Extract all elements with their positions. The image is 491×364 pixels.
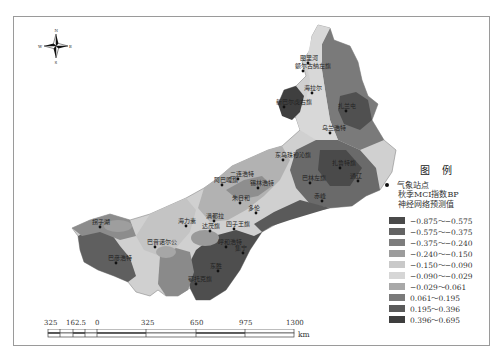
station-label: 锡林浩特 [250, 179, 274, 187]
station-label: 巴林左旗 [302, 174, 326, 182]
legend-class-label: −0.150～−0.090 [410, 259, 473, 270]
station-dot-icon [255, 212, 258, 215]
legend-class-label: 0.396～0.695 [410, 314, 460, 325]
station-label: 东胜 [210, 262, 222, 270]
station-dot-icon [339, 167, 342, 170]
station-dot-icon [154, 246, 157, 249]
station-label: 达茂旗 [202, 222, 220, 230]
compass-e: E [69, 44, 72, 49]
station-label: 集宁 [235, 244, 247, 252]
legend-subtitle-1: 秋季MCI指数BP [398, 190, 485, 200]
scale-tick: 1300 [286, 319, 304, 327]
compass-n: N [55, 28, 59, 33]
scale-unit: km [298, 330, 310, 339]
legend-classes: −0.875～−0.575−0.575～−0.375−0.375～−0.240−… [381, 215, 485, 325]
station-dot-icon [225, 246, 228, 249]
station-dot-icon [345, 110, 348, 113]
station-dot-icon [302, 70, 305, 73]
legend-class-row: −0.575～−0.375 [381, 226, 485, 237]
station-dot-icon [309, 182, 312, 185]
legend-class-row: −0.875～−0.575 [381, 215, 485, 226]
legend-class-label: −0.029～0.061 [410, 281, 466, 292]
legend-class-row: −0.240～−0.150 [381, 248, 485, 259]
station-label: 巴音诺尔公 [147, 238, 177, 246]
station-dot-icon [385, 183, 389, 187]
legend-class-label: −0.090～−0.029 [410, 270, 473, 281]
legend-class-label: −0.375～−0.240 [410, 237, 473, 248]
scale-tick: 325 [141, 319, 154, 327]
legend-swatch [389, 228, 405, 235]
scale-labels: 325 162.5 0 325 650 975 1300 [40, 319, 340, 329]
station-dot-icon [283, 106, 286, 109]
legend-title: 图 例 [391, 162, 485, 177]
scale-tick: 325 [44, 319, 57, 327]
legend-swatch [389, 250, 405, 257]
compass-s: S [55, 60, 58, 65]
station-label: 赤峰 [314, 192, 326, 200]
legend-swatch [389, 239, 405, 246]
legend-class-label: −0.240～−0.150 [410, 248, 473, 259]
scale-tick: 162.5 [66, 319, 86, 327]
station-label: 阿巴嘎旗 [214, 176, 238, 184]
station-label: 乌兰浩特 [322, 124, 346, 132]
legend-class-row: −0.029～0.061 [381, 281, 485, 292]
legend-class-row: −0.150～−0.090 [381, 259, 485, 270]
scale-tick: 0 [95, 319, 99, 327]
station-dot-icon [233, 228, 236, 231]
station-label: 四子王旗 [226, 220, 250, 228]
legend-class-row: 0.396～0.695 [381, 314, 485, 325]
station-dot-icon [99, 226, 102, 229]
station-label: 海力素 [178, 217, 196, 225]
station-label: 多伦 [248, 204, 260, 212]
compass-rose-icon: N S E W [38, 28, 72, 65]
legend-swatch [389, 261, 405, 268]
legend-class-label: 0.195～0.396 [410, 303, 460, 314]
station-dot-icon [329, 132, 332, 135]
legend-subtitle-2: 神经网络预测值 [398, 200, 485, 210]
legend-class-row: 0.195～0.396 [381, 303, 485, 314]
station-label: 东乌珠穆沁旗 [275, 151, 311, 159]
station-dot-icon [115, 262, 118, 265]
station-label: 巴彦浩特 [108, 254, 132, 262]
station-dot-icon [282, 159, 285, 162]
legend-swatch [389, 217, 405, 224]
station-dot-icon [209, 230, 212, 233]
station-dot-icon [221, 184, 224, 187]
station-label: 拐子湖 [92, 218, 110, 226]
station-label: 海拉尔 [304, 84, 322, 92]
station-label: 额尔古纳左旗 [295, 62, 331, 70]
scale-tick: 975 [239, 319, 252, 327]
station-dot-icon [242, 252, 245, 255]
legend-class-label: 0.061～0.195 [410, 292, 460, 303]
legend-class-label: −0.875～−0.575 [410, 215, 473, 226]
station-label: 扎兰屯 [338, 102, 356, 110]
station-dot-icon [321, 200, 324, 203]
legend-class-row: 0.061～0.195 [381, 292, 485, 303]
station-dot-icon [185, 225, 188, 228]
legend-class-row: −0.375～−0.240 [381, 237, 485, 248]
legend: 图 例 气象站点 秋季MCI指数BP 神经网络预测值 −0.875～−0.575… [381, 162, 485, 325]
station-label: 朱日和 [232, 194, 250, 202]
legend-swatch [389, 272, 405, 279]
station-label: 扎鲁特旗 [332, 159, 356, 167]
station-dot-icon [239, 202, 242, 205]
station-dot-icon [257, 187, 260, 190]
station-dot-icon [195, 283, 198, 286]
station-label: 鄂托克旗 [188, 275, 212, 283]
station-dot-icon [357, 180, 360, 183]
legend-class-row: −0.090～−0.029 [381, 270, 485, 281]
station-label: 通辽 [350, 172, 362, 180]
station-label: 图里河 [300, 54, 318, 62]
station-label: 满都拉 [206, 212, 224, 220]
scale-tick: 650 [190, 319, 203, 327]
legend-station-label: 气象站点 [397, 179, 429, 190]
compass-w: W [38, 44, 43, 49]
station-label: 新巴尔虎右旗 [276, 98, 312, 106]
legend-station-entry: 气象站点 [381, 179, 485, 190]
legend-swatch [389, 305, 405, 312]
station-dot-icon [311, 92, 314, 95]
legend-swatch [389, 283, 405, 290]
legend-class-label: −0.575～−0.375 [410, 226, 473, 237]
legend-swatch [389, 294, 405, 301]
legend-swatch [389, 316, 405, 323]
